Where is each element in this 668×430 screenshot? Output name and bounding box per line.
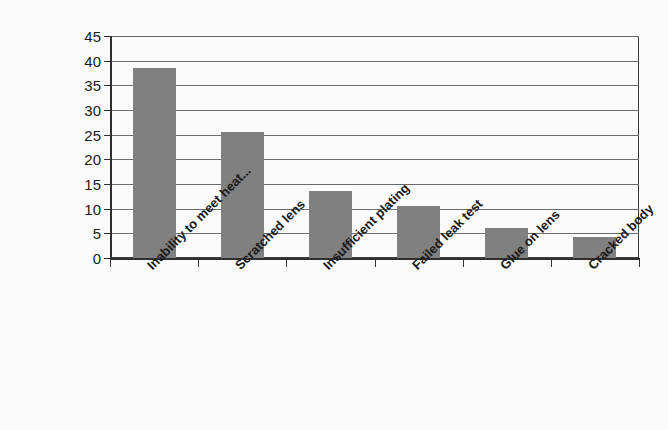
y-axis-tick-label: 35 <box>0 77 101 94</box>
y-axis-tick-label: 5 <box>0 225 101 242</box>
chart-screenshot: 051015202530354045 Inability to meet hea… <box>0 0 668 430</box>
bar <box>133 68 176 258</box>
y-axis-tick-label: 40 <box>0 52 101 69</box>
y-axis-tick-label: 0 <box>0 250 101 267</box>
x-axis-tick-labels: Inability to meet heat...Scratched lensI… <box>110 262 640 412</box>
y-axis-tick-labels: 051015202530354045 <box>0 36 101 258</box>
y-axis-tick-label: 15 <box>0 176 101 193</box>
y-axis-tick-label: 30 <box>0 102 101 119</box>
y-axis-tick-label: 25 <box>0 126 101 143</box>
y-axis-tick-label: 10 <box>0 200 101 217</box>
y-axis-tick-label: 20 <box>0 151 101 168</box>
y-axis-tick-label: 45 <box>0 28 101 45</box>
